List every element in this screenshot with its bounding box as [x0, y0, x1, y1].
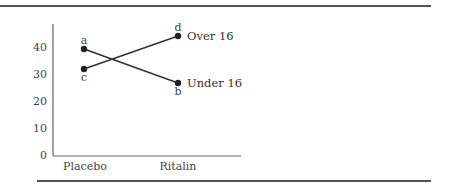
interaction-chart: 0 10 20 30 40 Placebo Ritalin a c d b Ov… [0, 0, 449, 189]
under-16-line [84, 49, 178, 83]
series-label-under-16: Under 16 [187, 76, 242, 90]
point-label-c: c [81, 71, 87, 84]
x-category-ritalin: Ritalin [160, 160, 197, 173]
y-tick-40: 40 [33, 41, 47, 54]
y-tick-30: 30 [33, 68, 47, 81]
series-label-over-16: Over 16 [187, 29, 234, 43]
y-tick-20: 20 [33, 95, 47, 108]
point-label-a: a [81, 34, 88, 47]
over-16-line [84, 36, 178, 69]
point-label-d: d [174, 21, 181, 34]
y-tick-0: 0 [40, 149, 47, 162]
bottom-rule [37, 180, 431, 182]
y-tick-10: 10 [33, 122, 47, 135]
point-label-b: b [174, 85, 181, 98]
x-category-placebo: Placebo [63, 160, 107, 173]
